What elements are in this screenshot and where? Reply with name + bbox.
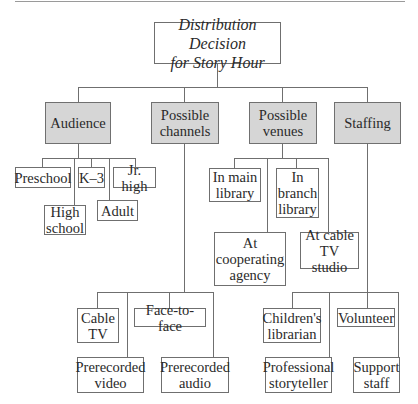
- option-preschool: Preschool: [15, 167, 71, 188]
- connector: [282, 143, 283, 158]
- connector: [184, 87, 185, 102]
- connector: [282, 87, 283, 102]
- connector: [234, 158, 329, 159]
- connector: [91, 158, 92, 167]
- connector: [109, 158, 110, 200]
- option-high-school: High school: [44, 205, 86, 235]
- connector: [184, 143, 185, 292]
- connector: [367, 292, 368, 308]
- option-adult: Adult: [97, 200, 138, 221]
- connector: [97, 292, 214, 293]
- connector: [74, 158, 75, 205]
- connector: [234, 158, 235, 168]
- connector: [292, 292, 399, 293]
- option-professional-storyteller: Professional storyteller: [265, 357, 332, 393]
- category-audience: Audience: [45, 102, 111, 144]
- connector: [367, 87, 368, 102]
- connector: [328, 158, 329, 232]
- connector: [78, 87, 79, 102]
- category-staffing: Staffing: [334, 102, 401, 144]
- connector: [42, 158, 136, 159]
- option-face-to-face: Face-to-face: [134, 308, 206, 327]
- root-node-title: Distribution Decision for Story Hour: [154, 22, 281, 64]
- option-childrens-librarian: Children's librarian: [263, 308, 321, 343]
- connector: [42, 158, 43, 167]
- option-prerecorded-audio: Prerecorded audio: [161, 357, 229, 393]
- connector: [296, 158, 297, 168]
- option-prerecorded-video: Prerecorded video: [77, 357, 144, 393]
- connector: [292, 292, 293, 308]
- connector: [78, 87, 368, 88]
- connector: [78, 143, 79, 158]
- option-volunteer: Volunteer: [337, 308, 395, 327]
- option-support-staff: Support staff: [353, 357, 400, 393]
- option-at-cable-tv-studio: At cable TV studio: [300, 232, 359, 269]
- connector: [127, 292, 128, 357]
- option-jr-high: Jr. high: [113, 167, 156, 188]
- top-rule: [15, 1, 405, 2]
- connector: [367, 143, 368, 292]
- connector: [267, 158, 268, 232]
- option-k-3: K–3: [78, 167, 105, 188]
- connector: [213, 292, 214, 357]
- category-possible-channels: Possible channels: [151, 102, 219, 144]
- connector: [398, 292, 399, 357]
- category-possible-venues: Possible venues: [249, 102, 317, 144]
- connector: [217, 63, 218, 87]
- connector: [97, 292, 98, 308]
- option-cable-tv: Cable TV: [77, 308, 119, 343]
- option-in-branch-library: In branch library: [276, 168, 319, 218]
- connector: [329, 292, 330, 357]
- option-in-main-library: In main library: [209, 168, 261, 202]
- option-at-cooperating-agency: At cooperating agency: [214, 232, 286, 286]
